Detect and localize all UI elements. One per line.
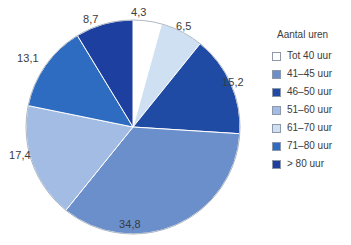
legend-item[interactable]: 71–80 uur (272, 137, 351, 155)
legend-swatch-icon (272, 160, 281, 169)
slice-value-label-80plus: 8,7 (83, 14, 99, 25)
legend-swatch-icon (272, 52, 281, 61)
legend-item[interactable]: Tot 40 uur (272, 47, 351, 65)
legend-item-list: Tot 40 uur41–45 uur46–50 uur51–60 uur61–… (272, 47, 351, 173)
legend-item[interactable]: > 80 uur (272, 155, 351, 173)
legend-item-label: 61–70 uur (287, 123, 332, 133)
legend-swatch-icon (272, 142, 281, 151)
legend-swatch-icon (272, 88, 281, 97)
legend-item[interactable]: 51–60 uur (272, 101, 351, 119)
pie-chart-figure: 8,7 4,3 6,5 15,2 34,8 17,4 13,1 Aantal u… (0, 0, 351, 245)
legend-swatch-icon (272, 70, 281, 79)
slice-value-label-41-45: 34,8 (119, 219, 141, 230)
slice-value-label-71-80: 13,1 (17, 53, 39, 64)
legend-title: Aantal uren (277, 30, 351, 40)
legend-item[interactable]: 61–70 uur (272, 119, 351, 137)
pie-svg (0, 0, 265, 245)
legend: Aantal uren Tot 40 uur41–45 uur46–50 uur… (272, 30, 351, 173)
legend-item-label: 51–60 uur (287, 105, 332, 115)
pie-chart-area: 8,7 4,3 6,5 15,2 34,8 17,4 13,1 (0, 0, 265, 245)
legend-item-label: Tot 40 uur (287, 51, 331, 61)
legend-item[interactable]: 41–45 uur (272, 65, 351, 83)
slice-value-label-51-60: 17,4 (9, 150, 31, 161)
slice-value-label-61-70: 6,5 (176, 21, 192, 32)
legend-item-label: 46–50 uur (287, 87, 332, 97)
slice-value-label-tot40: 4,3 (131, 7, 147, 18)
legend-item-label: 71–80 uur (287, 141, 332, 151)
legend-swatch-icon (272, 124, 281, 133)
legend-item-label: > 80 uur (287, 159, 324, 169)
slice-value-label-46-50: 15,2 (222, 77, 244, 88)
legend-item-label: 41–45 uur (287, 69, 332, 79)
legend-item[interactable]: 46–50 uur (272, 83, 351, 101)
pie-slice-group (26, 20, 240, 234)
legend-swatch-icon (272, 106, 281, 115)
